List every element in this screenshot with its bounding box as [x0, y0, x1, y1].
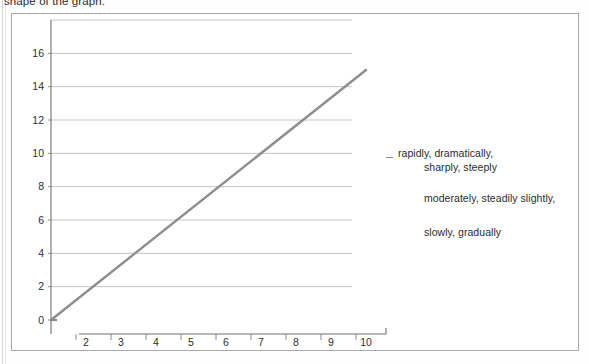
- x-axis-tick-label: 1: [51, 350, 57, 352]
- y-axis-tick-label: 10: [32, 147, 44, 159]
- y-axis-tick-label: 8: [38, 180, 44, 192]
- y-axis-tick-label: 12: [32, 114, 44, 126]
- vocab-group-moderate: moderately, steadily slightly,: [424, 191, 589, 205]
- dash-artifact: [386, 157, 393, 158]
- vocabulary-list: rapidly, dramatically, sharply, steeply …: [394, 146, 589, 239]
- x-axis-tick-label: 6: [223, 336, 229, 348]
- y-axis-tick-label: 16: [32, 47, 44, 59]
- y-axis-tick-label: 2: [38, 280, 44, 292]
- page-edge-line-two: [5, 0, 6, 364]
- y-axis-tick-label: 4: [38, 247, 44, 259]
- vocab-group-rapid: rapidly, dramatically, sharply, steeply: [398, 146, 589, 174]
- vocab-rapid-line-2: sharply, steeply: [424, 160, 589, 174]
- x-axis-tick-label: 3: [118, 336, 124, 348]
- vocab-group-slow: slowly, gradually: [424, 225, 589, 239]
- page-edge-line: [2, 0, 3, 364]
- figure-box: 024681012141612345678910 rapidly, dramat…: [11, 13, 579, 351]
- worksheet-page: shape of the graph. 02468101214161234567…: [0, 0, 589, 364]
- x-axis-tick-label: 5: [188, 336, 194, 348]
- x-axis-tick-label: 9: [328, 336, 334, 348]
- x-axis-tick-label: 10: [360, 336, 372, 348]
- vocab-rapid-line-1: rapidly, dramatically,: [398, 146, 589, 160]
- y-axis-tick-label: 6: [38, 214, 44, 226]
- x-axis-tick-label: 8: [293, 336, 299, 348]
- vocab-moderate-line-1: moderately, steadily slightly,: [424, 191, 589, 205]
- truncated-body-text: shape of the graph.: [4, 0, 105, 8]
- vocab-slow-line-1: slowly, gradually: [424, 225, 589, 239]
- y-axis-tick-label: 0: [38, 314, 44, 326]
- data-line: [51, 70, 366, 320]
- x-axis-tick-label: 2: [83, 336, 89, 348]
- x-axis-tick-label: 4: [153, 336, 159, 348]
- x-axis-tick-label: 7: [258, 336, 264, 348]
- y-axis-tick-label: 14: [32, 80, 44, 92]
